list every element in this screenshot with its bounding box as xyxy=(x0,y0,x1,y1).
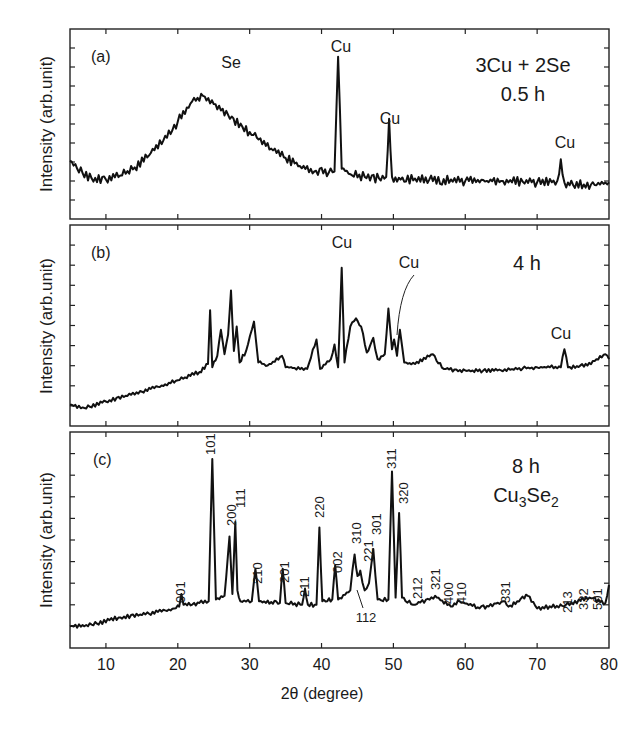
hkl-label-331: 331 xyxy=(498,581,513,603)
panel-b: (b) Cu Cu Cu 4 h xyxy=(70,225,609,426)
panel-b-label: (b) xyxy=(91,244,111,261)
hkl-label-111: 111 xyxy=(233,488,248,508)
annotation-cu-b-1: Cu xyxy=(332,234,352,251)
panel-c: (c) 8 h Cu3Se2 0011012001112102012112200… xyxy=(70,432,609,648)
hkl-label-320: 320 xyxy=(396,482,411,504)
annotation-cu-2: Cu xyxy=(380,110,400,127)
annotation-cu-3: Cu xyxy=(555,134,575,151)
annotation-se: Se xyxy=(221,54,241,71)
hkl-label-211: 211 xyxy=(297,576,312,597)
panel-b-condition-time: 4 h xyxy=(513,252,541,274)
hkl-label-311: 311 xyxy=(384,448,399,469)
y-axis-title-c: Intensity (arb.unit) xyxy=(37,472,56,608)
hkl-112-leader xyxy=(357,590,363,608)
hkl-label-201: 201 xyxy=(277,561,292,583)
panel-c-formula: Cu3Se2 xyxy=(493,484,559,510)
hkl-label-210: 210 xyxy=(250,562,265,584)
x-tick-labels: 1020304050607080 xyxy=(97,656,618,673)
panel-a-label: (a) xyxy=(91,48,111,65)
x-tick-label: 30 xyxy=(241,656,259,673)
x-tick-label: 40 xyxy=(313,656,331,673)
xrd-figure: Intensity (arb.unit) Intensity (arb.unit… xyxy=(0,0,639,730)
panel-a-trace xyxy=(70,57,609,189)
annotation-leader-line xyxy=(397,275,414,335)
hkl-label-332: 332 xyxy=(576,588,591,610)
annotation-cu-b-3: Cu xyxy=(551,325,571,342)
panel-a: (a) Se Cu Cu Cu 3Cu + 2Se 0.5 h xyxy=(70,29,609,219)
y-axis-title-a: Intensity (arb.unit) xyxy=(37,56,56,192)
hkl-label-501: 501 xyxy=(590,588,605,610)
hkl-label-212: 212 xyxy=(410,577,425,599)
hkl-label-410: 410 xyxy=(454,582,469,604)
panel-c-label: (c) xyxy=(93,451,112,468)
annotation-cu-b-2: Cu xyxy=(399,254,419,271)
x-tick-label: 80 xyxy=(600,656,618,673)
x-tick-label: 60 xyxy=(456,656,474,673)
hkl-label-101: 101 xyxy=(203,433,218,455)
panel-a-condition-time: 0.5 h xyxy=(501,83,545,105)
hkl-label-112: 112 xyxy=(356,610,377,625)
x-axis-title: 2θ (degree) xyxy=(281,685,364,702)
y-axis-title-b: Intensity (arb.unit) xyxy=(37,258,56,394)
hkl-label-001: 001 xyxy=(173,581,188,603)
x-tick-label: 50 xyxy=(385,656,403,673)
hkl-label-002: 002 xyxy=(330,551,345,573)
hkl-label-220: 220 xyxy=(312,496,327,518)
hkl-label-301: 301 xyxy=(369,513,384,535)
x-tick-label: 10 xyxy=(97,656,115,673)
hkl-label-221: 221 xyxy=(361,540,376,562)
hkl-label-213: 213 xyxy=(560,591,575,613)
panel-a-condition-composition: 3Cu + 2Se xyxy=(475,54,570,76)
x-tick-label: 20 xyxy=(169,656,187,673)
x-tick-label: 70 xyxy=(528,656,546,673)
panel-c-condition-time: 8 h xyxy=(512,455,540,477)
annotation-cu-1: Cu xyxy=(331,38,351,55)
panel-b-trace xyxy=(70,268,609,409)
